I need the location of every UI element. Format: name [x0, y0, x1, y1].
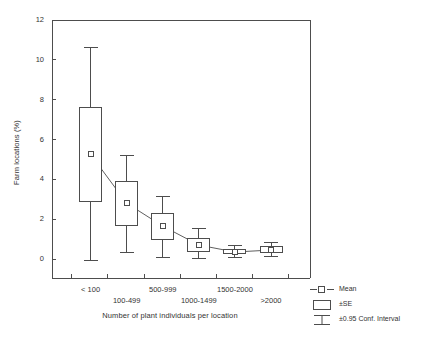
x-tick-label: 500-999	[133, 285, 193, 294]
y-tick-label: 2	[22, 214, 44, 223]
legend-label-mean: Mean	[339, 285, 357, 292]
boxplot-group	[116, 155, 138, 252]
error-bar-icon	[309, 312, 335, 325]
box-rect-icon	[309, 297, 335, 310]
y-tick-label: 8	[22, 95, 44, 104]
legend-label-ci: ±0.95 Conf. Interval	[339, 315, 400, 322]
chart-legend: Mean ±SE ±0.95 Conf. Interval	[309, 281, 425, 327]
x-tick-label: 1500-2000	[205, 285, 265, 294]
y-tick-label: 4	[22, 174, 44, 183]
legend-label-se: ±SE	[339, 300, 352, 307]
y-tick-label: 10	[22, 55, 44, 64]
boxplot-group	[224, 245, 246, 257]
x-tick-label: 100-499	[97, 296, 157, 305]
y-axis-title: Farm locations (%)	[12, 93, 21, 213]
y-axis-ticks	[52, 20, 56, 259]
y-tick-label: 6	[22, 135, 44, 144]
legend-item-mean: Mean	[309, 281, 357, 295]
x-tick-label: 1000-1499	[169, 296, 229, 305]
x-tick-label: < 100	[61, 285, 121, 294]
boxplot-group	[260, 242, 282, 256]
y-tick-label: 0	[22, 254, 44, 263]
legend-item-ci: ±0.95 Conf. Interval	[309, 311, 400, 325]
boxplot-group	[188, 228, 210, 258]
chart-figure: Farm locations (%) Number of plant indiv…	[0, 0, 425, 337]
boxplot-group	[152, 196, 174, 257]
boxplot-group	[80, 48, 102, 261]
x-axis-title: Number of plant individuals per location	[60, 311, 280, 320]
legend-item-se: ±SE	[309, 296, 352, 310]
x-axis-ticks	[72, 274, 289, 278]
y-tick-label: 12	[22, 15, 44, 24]
line-marker-square-icon	[309, 282, 335, 295]
x-tick-label: >2000	[241, 296, 301, 305]
